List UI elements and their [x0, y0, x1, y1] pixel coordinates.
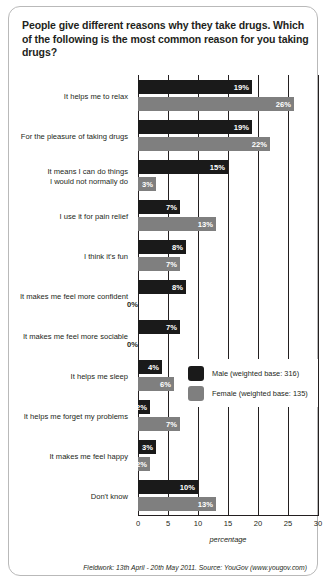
bar-value-label: 13%	[198, 220, 216, 229]
bar-row: It makes me feel more sociable7%0%	[130, 317, 318, 357]
bar-value-label: 26%	[276, 100, 294, 109]
category-label: It helps me to relax	[0, 92, 128, 102]
bar-male: 19%	[138, 120, 252, 134]
x-tick-label: 10	[194, 519, 202, 528]
chart-legend: Male (weighted base: 316) Female (weight…	[184, 359, 318, 407]
bar-male: 19%	[138, 80, 252, 94]
bar-value-label: 3%	[142, 180, 156, 189]
chart-page: People give different reasons why they t…	[0, 0, 325, 582]
category-label: It helps me sleep	[0, 372, 128, 382]
bar-female: 7%	[138, 257, 180, 271]
bar-value-label: 7%	[166, 420, 180, 429]
bar-female: 7%	[138, 417, 180, 431]
bar-value-label: 0%	[124, 340, 138, 349]
category-label: It makes me feel more sociable	[0, 332, 128, 342]
category-label: It makes me feel more confident	[0, 292, 128, 302]
bar-male: 8%	[138, 280, 186, 294]
bar-value-label: 22%	[252, 140, 270, 149]
category-label: I think it's fun	[0, 252, 128, 262]
bar-value-label: 10%	[180, 483, 198, 492]
bar-male: 15%	[138, 160, 228, 174]
bar-female: 3%	[138, 177, 156, 191]
page-title: People give different reasons why they t…	[22, 19, 310, 60]
bar-male: 8%	[138, 240, 186, 254]
bar-male: 7%	[138, 320, 180, 334]
bar-value-label: 8%	[172, 243, 186, 252]
x-tick-label: 5	[166, 519, 170, 528]
bar-row: It helps me to relax19%26%	[130, 77, 318, 117]
bar-female: 22%	[138, 137, 270, 151]
x-tick-label: 20	[254, 519, 262, 528]
bar-value-label: 7%	[166, 203, 180, 212]
category-label: It makes me feel happy	[0, 452, 128, 462]
bar-row: I use it for pain relief7%13%	[130, 197, 318, 237]
bar-male: 7%	[138, 200, 180, 214]
bar-row: It makes me feel happy3%2%	[130, 437, 318, 477]
bar-male: 4%	[138, 360, 162, 374]
bar-male: 10%	[138, 480, 198, 494]
bar-value-label: 7%	[166, 323, 180, 332]
bar-female: 6%	[138, 377, 174, 391]
legend-label-male: Male (weighted base: 316)	[212, 369, 299, 378]
bar-row: Don't know10%13%	[130, 477, 318, 517]
bar-value-label: 0%	[124, 300, 138, 309]
gridline-30	[318, 75, 319, 516]
bar-row: It makes me feel more confident8%0%	[130, 277, 318, 317]
bar-value-label: 15%	[210, 163, 228, 172]
bar-female: 13%	[138, 217, 216, 231]
legend-item-male: Male (weighted base: 316)	[188, 363, 315, 383]
bar-male: 2%	[138, 400, 150, 414]
category-label: It helps me forget my problems	[0, 412, 128, 422]
x-tick-label: 25	[284, 519, 292, 528]
legend-label-female: Female (weighted base: 135)	[212, 389, 308, 398]
legend-swatch-male-icon	[188, 366, 204, 381]
bar-value-label: 8%	[172, 283, 186, 292]
bar-male: 3%	[138, 440, 156, 454]
legend-item-female: Female (weighted base: 135)	[188, 383, 315, 403]
bar-female: 13%	[138, 497, 216, 511]
x-axis-ticks: 051015202530	[138, 519, 318, 531]
plot-area: It helps me to relax19%26%For the pleasu…	[130, 75, 318, 516]
bar-row: For the pleasure of taking drugs19%22%	[130, 117, 318, 157]
bar-female: 2%	[138, 457, 150, 471]
bar-value-label: 6%	[160, 380, 174, 389]
category-label: For the pleasure of taking drugs	[0, 132, 128, 142]
bar-value-label: 3%	[142, 443, 156, 452]
chart-footer: Fieldwork: 13th April - 20th May 2011. S…	[9, 564, 307, 571]
x-tick-label: 0	[136, 519, 140, 528]
bar-value-label: 2%	[136, 403, 150, 412]
bar-value-label: 4%	[148, 363, 162, 372]
bar-value-label: 7%	[166, 260, 180, 269]
x-tick-label: 15	[224, 519, 232, 528]
category-label: Don't know	[0, 492, 128, 502]
bar-value-label: 2%	[136, 460, 150, 469]
x-axis-label: percentage	[138, 535, 318, 544]
bar-value-label: 13%	[198, 500, 216, 509]
bar-row: It means I can do things I would not nor…	[130, 157, 318, 197]
bar-row: I think it's fun8%7%	[130, 237, 318, 277]
category-label: I use it for pain relief	[0, 212, 128, 222]
legend-swatch-female-icon	[188, 386, 204, 401]
chart-card: People give different reasons why they t…	[8, 6, 318, 576]
bar-value-label: 19%	[234, 123, 252, 132]
category-label: It means I can do things I would not nor…	[0, 167, 128, 186]
bar-value-label: 19%	[234, 83, 252, 92]
bar-female: 26%	[138, 97, 294, 111]
x-tick-label: 30	[314, 519, 322, 528]
